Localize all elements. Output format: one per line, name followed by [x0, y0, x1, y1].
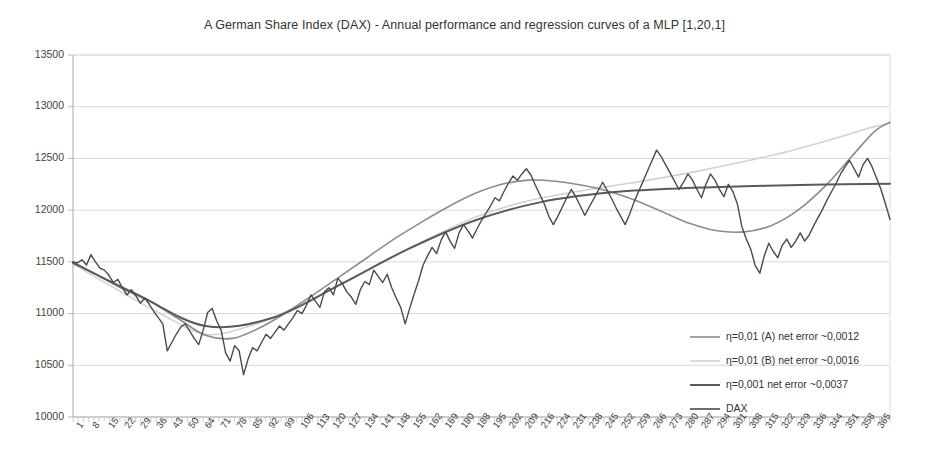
y-tick-label: 10500: [35, 358, 64, 370]
x-tick-label: 141: [378, 411, 396, 430]
y-tick-label: 10000: [35, 410, 64, 422]
chart-legend: η=0,01 (A) net error ~0,0012η=0,01 (B) n…: [690, 330, 859, 414]
chart-plot-svg: 1350013000125001200011500110001050010000…: [0, 0, 929, 459]
x-tick-label: 238: [586, 411, 604, 430]
x-tick-label: 127: [346, 411, 364, 430]
series-line: [73, 123, 890, 334]
x-tick-label: 287: [698, 411, 716, 430]
x-tick-label: 180: [458, 411, 476, 430]
x-tick-label: 245: [602, 411, 620, 430]
series-line: [73, 122, 890, 339]
y-tick-label: 13000: [35, 99, 64, 111]
x-tick-label: 315: [763, 411, 781, 430]
x-tick-label: 209: [522, 411, 540, 430]
x-tick-label: 280: [682, 411, 700, 430]
y-tick-label: 11500: [36, 255, 65, 267]
y-tick-label: 13500: [35, 48, 64, 60]
x-tick-label: 155: [410, 411, 428, 430]
x-tick-label: 252: [618, 411, 636, 430]
chart-container: A German Share Index (DAX) - Annual perf…: [0, 0, 929, 459]
x-tick-label: 344: [827, 411, 845, 430]
x-tick-label: 216: [538, 411, 556, 430]
x-tick-label: 148: [394, 411, 412, 430]
legend-label: η=0,01 (A) net error ~0,0012: [726, 330, 859, 342]
x-tick-label: 308: [746, 411, 764, 430]
x-tick-label: 169: [442, 411, 460, 430]
legend-label: η=0,01 (B) net error ~0,0016: [726, 354, 859, 366]
x-tick-label: 231: [570, 411, 588, 430]
legend-label: DAX: [726, 402, 748, 414]
x-tick-label: 8: [90, 419, 102, 430]
y-axis-ticks: 1350013000125001200011500110001050010000: [35, 48, 73, 422]
x-tick-label: 273: [666, 411, 684, 430]
y-tick-label: 12500: [35, 151, 64, 163]
x-tick-label: 195: [490, 411, 508, 430]
x-tick-label: 1: [74, 419, 86, 430]
x-axis-ticks: 1815222936435064717885929910611312012713…: [73, 411, 893, 430]
y-tick-label: 12000: [35, 203, 64, 215]
x-tick-label: 113: [314, 411, 332, 430]
x-tick-label: 188: [474, 411, 492, 430]
x-tick-label: 106: [298, 411, 316, 430]
x-tick-label: 358: [859, 411, 877, 430]
x-tick-label: 336: [811, 411, 829, 430]
x-tick-label: 134: [362, 411, 380, 430]
x-tick-label: 351: [843, 411, 861, 430]
y-tick-label: 11000: [36, 306, 65, 318]
series-line: [73, 184, 890, 327]
x-tick-label: 259: [634, 411, 652, 430]
x-tick-label: 266: [650, 411, 668, 430]
x-tick-label: 162: [426, 411, 444, 430]
x-tick-label: 329: [795, 411, 813, 430]
x-tick-label: 322: [779, 411, 797, 430]
x-tick-label: 120: [330, 411, 348, 430]
x-tick-label: 202: [506, 411, 524, 430]
x-tick-label: 224: [554, 411, 572, 430]
legend-label: η=0,001 net error ~0,0037: [726, 378, 848, 390]
